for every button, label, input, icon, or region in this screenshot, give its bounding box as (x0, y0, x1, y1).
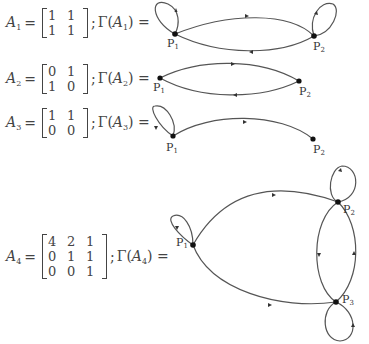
edge-loop-p3 (325, 302, 353, 341)
edge-loop-p2 (330, 166, 355, 202)
node-label-p2: P2 (313, 40, 325, 54)
arrow-mark (231, 62, 235, 66)
graph-a1: P1 P2 (155, 2, 336, 54)
edge-loop-p1 (155, 2, 178, 34)
node-p1 (190, 242, 196, 248)
edge-loop-p2 (312, 3, 336, 36)
node-p2 (310, 136, 315, 141)
edge-p1-p2 (160, 63, 299, 81)
node-p2 (335, 199, 341, 205)
arrow-mark (233, 93, 237, 97)
arrow-mark (268, 303, 272, 307)
node-p1 (157, 75, 162, 80)
node-label-p1: P1 (166, 141, 178, 155)
graph-a3: P1 P2 (153, 106, 325, 157)
node-p1 (170, 133, 175, 138)
arrow-mark (243, 120, 247, 124)
arrow-mark (317, 253, 321, 257)
node-label-p2: P2 (313, 143, 325, 157)
node-label-p1: P1 (176, 236, 188, 250)
edge-p1-p3 (193, 245, 336, 304)
edge-p2-p1 (175, 34, 314, 51)
node-p2 (296, 78, 301, 83)
node-label-p2: P2 (343, 203, 355, 217)
node-p2 (311, 33, 317, 39)
node-label-p2: P2 (299, 85, 311, 99)
edge-p1-p2 (193, 191, 338, 245)
graph-a2: P1 P2 (153, 62, 311, 99)
node-p3 (333, 299, 339, 305)
arrow-mark (351, 323, 355, 327)
edge-p2-p3 (317, 202, 338, 302)
arrow-mark (154, 126, 158, 130)
graph-a4: P1 P2 P3 (171, 166, 356, 341)
arrow-mark (272, 193, 276, 197)
node-label-p1: P1 (153, 81, 165, 95)
node-label-p3: P3 (342, 293, 354, 307)
edge-p3-p2 (336, 202, 356, 302)
edge-p1-p2 (175, 18, 314, 36)
arrow-mark (338, 168, 342, 172)
edge-loop-p1 (153, 106, 174, 136)
node-label-p1: P1 (167, 37, 179, 51)
graphs-canvas: P1 P2 P1 P2 P1 P2 (0, 0, 369, 344)
edge-p2-p1 (160, 78, 299, 95)
node-p1 (172, 31, 178, 37)
